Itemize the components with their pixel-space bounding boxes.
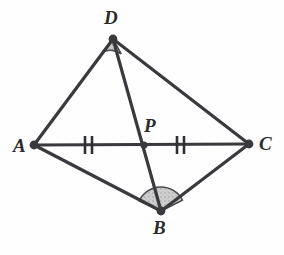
segment-group bbox=[34, 39, 249, 211]
vertex-label-P: P bbox=[144, 116, 156, 135]
vertex-dot-C bbox=[245, 140, 254, 149]
segment-BC bbox=[161, 144, 249, 211]
figure-canvas bbox=[0, 0, 284, 255]
vertex-dot-A bbox=[30, 141, 39, 150]
segment-AB bbox=[34, 145, 161, 211]
geometry-figure: D A C B P bbox=[0, 0, 284, 255]
vertex-label-C: C bbox=[259, 134, 272, 153]
vertex-dot-B bbox=[157, 207, 166, 216]
vertex-dot-D bbox=[109, 35, 118, 44]
vertex-dot-P bbox=[140, 141, 147, 148]
segment-DC bbox=[113, 39, 249, 144]
segment-AD bbox=[34, 39, 113, 145]
vertex-label-D: D bbox=[104, 8, 118, 27]
vertex-label-A: A bbox=[13, 136, 26, 155]
vertex-label-B: B bbox=[153, 218, 166, 237]
